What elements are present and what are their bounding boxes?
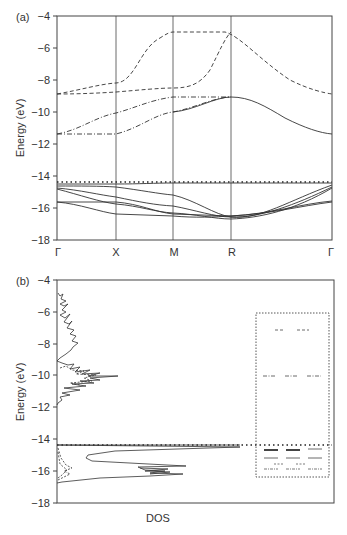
svg-text:−16: −16 <box>31 465 50 477</box>
svg-text:−8: −8 <box>37 74 50 86</box>
band-solid-upper <box>173 97 332 134</box>
svg-text:−14: −14 <box>31 433 50 445</box>
svg-text:−12: −12 <box>31 401 50 413</box>
band-dashdot-lower <box>57 97 231 134</box>
svg-text:−16: −16 <box>31 202 50 214</box>
svg-text:R: R <box>228 246 236 258</box>
svg-text:−14: −14 <box>31 170 50 182</box>
svg-text:−4: −4 <box>37 274 50 286</box>
svg-text:−6: −6 <box>37 306 50 318</box>
svg-text:−10: −10 <box>31 369 50 381</box>
legend <box>256 313 329 477</box>
core-band-1 <box>57 183 332 184</box>
svg-text:−18: −18 <box>31 497 50 509</box>
panel-a: (a) −4 −6 −8 −10 −12 −14 −16 −18 E <box>14 10 334 258</box>
panel-b-yaxis <box>53 280 57 503</box>
dos-valence <box>57 293 118 405</box>
band-dashed-lower <box>57 32 231 94</box>
panel-b-ytick-labels: −4 −6 −8 −10 −12 −14 −16 −18 <box>31 274 50 509</box>
svg-text:−4: −4 <box>37 10 50 22</box>
svg-text:X: X <box>112 246 120 258</box>
svg-text:−12: −12 <box>31 138 50 150</box>
panel-a-ytick-labels: −4 −6 −8 −10 −12 −14 −16 −18 <box>31 10 50 246</box>
legend-box <box>256 313 329 477</box>
panel-b-label: (b) <box>16 275 29 287</box>
core-band-2 <box>57 185 332 217</box>
svg-text:−6: −6 <box>37 42 50 54</box>
svg-text:Γ: Γ <box>328 246 334 258</box>
figure: (a) −4 −6 −8 −10 −12 −14 −16 −18 E <box>0 0 347 535</box>
panel-a-frame <box>57 16 332 240</box>
panel-b-xlabel: DOS <box>146 512 170 524</box>
panel-a-yaxis <box>53 16 57 240</box>
svg-text:−10: −10 <box>31 106 50 118</box>
band-dashed-upper <box>57 32 332 94</box>
svg-text:−8: −8 <box>37 338 50 350</box>
svg-text:M: M <box>169 246 178 258</box>
panel-a-kpoint-labels: Γ X M R Γ <box>55 246 334 258</box>
svg-text:Γ: Γ <box>55 246 61 258</box>
panel-b-ylabel: Energy (eV) <box>14 363 26 422</box>
panel-a-label: (a) <box>16 11 29 23</box>
dos-curves <box>57 293 332 483</box>
panel-b: (b) −4 −6 −8 −10 −12 −14 −16 −18 Energy … <box>14 274 334 524</box>
dos-core <box>57 445 240 483</box>
svg-text:−18: −18 <box>31 234 50 246</box>
panel-a-ylabel: Energy (eV) <box>14 99 26 158</box>
band-structure <box>57 32 332 219</box>
